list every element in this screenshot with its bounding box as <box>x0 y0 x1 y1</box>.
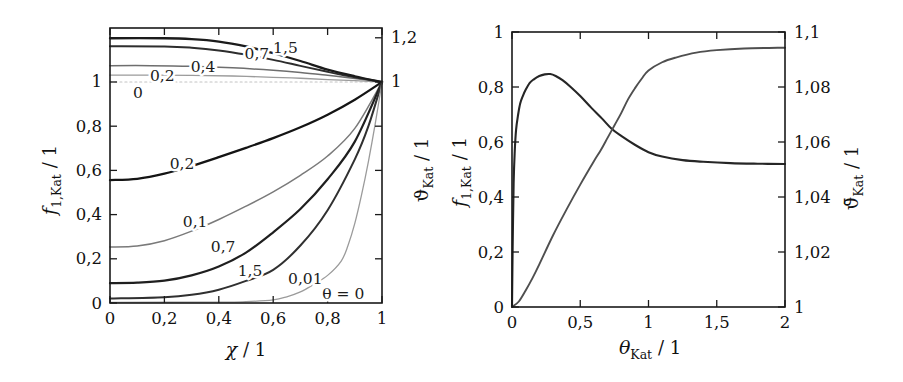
x-tick-label: 0,4 <box>206 309 232 328</box>
plot-frame <box>512 32 785 307</box>
y-left-tick-label: 0,8 <box>478 78 504 97</box>
y-left-tick-label: 0 <box>92 294 103 313</box>
x-tick-label: 1,5 <box>704 313 730 332</box>
y-right-tick-label: 1,06 <box>794 133 831 152</box>
curve-label: 1,5 <box>273 39 298 57</box>
figure-canvas: 00,20,40,60,8100,20,40,60,8111,2χ / 1f1,… <box>0 0 903 382</box>
curve-f-1-kat <box>512 74 785 307</box>
x-axis-title-subscript: Kat <box>630 347 652 362</box>
x-tick-label: 1 <box>643 313 654 332</box>
x-axis-title-symbol: θ <box>619 336 631 358</box>
y-right-tick-label: 1 <box>794 298 805 317</box>
y-right-axis-title-unit: / 1 <box>411 138 432 167</box>
curve-f-theta-0.2 <box>110 82 382 180</box>
y-right-tick-label: 1,08 <box>794 78 831 97</box>
y-left-tick-label: 1 <box>494 23 505 42</box>
x-tick-label: 1 <box>377 309 388 328</box>
y-left-tick-label: 0,8 <box>76 117 102 136</box>
y-left-tick-label: 0,2 <box>478 243 504 262</box>
y-left-axis-title-subscript: 1,Kat <box>49 174 64 208</box>
y-right-tick-label: 1,1 <box>794 23 820 42</box>
y-right-tick-label: 1,04 <box>794 188 831 207</box>
x-axis-title-unit: / 1 <box>237 339 266 360</box>
y-left-axis-title: f1,Kat / 1 <box>448 137 474 209</box>
y-right-axis-title: ϑ̄Kat / 1 <box>840 146 866 210</box>
curve-label: 0,2 <box>150 67 175 85</box>
y-left-tick-label: 1 <box>92 72 103 91</box>
curve-label: θ = 0 <box>322 285 364 303</box>
curve-vartheta-mean-kat <box>512 48 785 307</box>
x-tick-label: 0,8 <box>314 309 340 328</box>
x-tick-label: 0,6 <box>260 309 286 328</box>
y-right-axis-title-unit: / 1 <box>841 146 862 175</box>
curve-f-theta-0.7 <box>110 82 382 283</box>
x-axis-title-unit: / 1 <box>652 337 681 358</box>
curve-label: 0,1 <box>183 213 208 231</box>
plot-right: 00,511,5200,20,40,60,8111,021,041,061,08… <box>448 23 866 362</box>
y-right-axis-title-subscript: Kat <box>851 175 866 197</box>
x-axis-title: θKat / 1 <box>619 336 681 362</box>
y-left-tick-label: 0,2 <box>76 249 102 268</box>
curve-label: 0,7 <box>211 238 236 256</box>
y-right-tick-label: 1 <box>391 72 402 91</box>
x-tick-label: 0 <box>507 313 518 332</box>
y-right-axis-title-symbol: ϑ̄ <box>840 197 862 211</box>
x-axis-title: χ / 1 <box>224 338 266 360</box>
curve-label: 0,4 <box>191 58 216 76</box>
y-left-tick-label: 0,4 <box>76 205 102 224</box>
dual-plot-figure: 00,20,40,60,8100,20,40,60,8111,2χ / 1f1,… <box>0 0 903 382</box>
curve-label: 1,5 <box>238 262 263 280</box>
y-left-tick-label: 0,6 <box>76 161 102 180</box>
y-right-tick-label: 1,02 <box>794 243 831 262</box>
curve-label: 0,7 <box>245 45 270 63</box>
y-right-tick-label: 1,2 <box>391 28 417 47</box>
y-left-axis-title-unit: / 1 <box>39 145 60 174</box>
curve-label: 0,2 <box>170 155 195 173</box>
y-left-tick-label: 0 <box>494 298 505 317</box>
y-left-axis-title: f1,Kat / 1 <box>38 145 64 217</box>
x-tick-label: 0,5 <box>567 313 593 332</box>
x-tick-label: 2 <box>780 313 791 332</box>
y-right-axis-title-symbol: ϑ <box>410 189 432 203</box>
curve-label: 0,01 <box>288 270 323 288</box>
curve-label: 0 <box>133 84 143 102</box>
y-left-tick-label: 0,4 <box>478 188 504 207</box>
y-left-axis-title-subscript: 1,Kat <box>459 166 474 200</box>
x-tick-label: 0 <box>105 309 116 328</box>
y-right-axis-title-subscript: Kat <box>421 167 436 189</box>
y-right-axis-title: ϑKat / 1 <box>410 138 436 202</box>
plot-left: 00,20,40,60,8100,20,40,60,8111,2χ / 1f1,… <box>38 28 436 360</box>
x-tick-label: 0,2 <box>151 309 177 328</box>
y-left-tick-label: 0,6 <box>478 133 504 152</box>
y-left-axis-title-unit: / 1 <box>449 137 470 166</box>
